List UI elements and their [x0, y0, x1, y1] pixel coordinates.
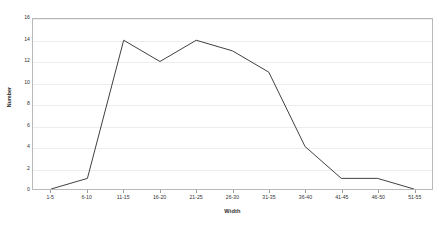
line-chart: Number 0246810121416 1-56-1011-1516-2021… [0, 0, 444, 227]
x-axis-tick [342, 190, 343, 193]
x-axis-tick [305, 190, 306, 193]
x-axis-title: Width [32, 208, 433, 214]
y-axis-tick-label: 4 [14, 144, 30, 149]
x-axis-tick [378, 190, 379, 193]
x-axis-tick [415, 190, 416, 193]
y-axis-tick-label: 16 [14, 15, 30, 20]
plot-area [32, 18, 433, 190]
y-axis-tick-label: 10 [14, 80, 30, 85]
y-axis-tick-label: 8 [14, 101, 30, 106]
x-axis-tick [196, 190, 197, 193]
series-polyline [51, 40, 414, 189]
x-axis-tick-labels: 1-56-1011-1516-2021-2526-3031-3536-4041-… [32, 195, 433, 205]
x-axis-tick [50, 190, 51, 193]
y-axis-title: Number [6, 69, 12, 125]
x-axis-tick [233, 190, 234, 193]
y-axis-tick-label: 6 [14, 123, 30, 128]
y-axis-tick-label: 0 [14, 187, 30, 192]
y-axis-tick-label: 12 [14, 58, 30, 63]
data-series-line [33, 19, 432, 189]
x-axis-tick [87, 190, 88, 193]
x-axis-tick [160, 190, 161, 193]
y-axis-tick-labels: 0246810121416 [14, 18, 30, 190]
x-axis-tick [269, 190, 270, 193]
y-axis-tick-label: 2 [14, 166, 30, 171]
x-axis-tick [123, 190, 124, 193]
x-axis-tick-label: 51-55 [392, 195, 438, 200]
y-axis-tick-label: 14 [14, 37, 30, 42]
